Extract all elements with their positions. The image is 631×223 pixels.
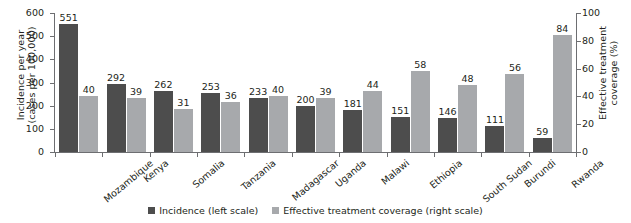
bar-value-coverage: 56 [501,63,528,73]
legend-item: Effective treatment coverage (right scal… [272,205,483,216]
y-axis-left-ticks: 6005004003002001000 [18,0,44,223]
plot-area: 5514029239262312533623340200391814415158… [55,13,576,152]
y-tick-right-100: 100 [582,8,608,18]
y-tick-right-80: 80 [582,36,608,46]
tick-mark-right-60 [577,69,581,70]
bar-value-coverage: 40 [265,85,292,95]
y-axis-right-line [576,13,577,153]
bar-value-incidence: 262 [148,80,179,90]
bar-coverage [79,96,98,152]
y-axis-right-ticks: 100806040200 [582,0,608,223]
y-tick-left-400: 400 [18,54,44,64]
y-tick-right-40: 40 [582,91,608,101]
tick-mark-x [481,153,482,157]
bar-value-coverage: 31 [170,98,197,108]
tick-mark-left-400 [50,59,54,60]
bar-coverage [127,98,146,152]
bar-group: 20039 [296,13,335,152]
bar-incidence [249,98,268,152]
tick-mark-x [576,153,577,157]
tick-mark-x [339,153,340,157]
chart-legend: Incidence (left scale)Effective treatmen… [0,205,631,216]
legend-label: Effective treatment coverage (right scal… [283,205,483,216]
bar-incidence [296,106,315,152]
bar-incidence [438,118,457,152]
bar-value-incidence: 59 [527,127,558,137]
bar-coverage [221,102,240,152]
bar-value-coverage: 36 [217,91,244,101]
legend-swatch-icon [272,207,279,214]
bar-incidence [343,110,362,152]
bar-value-coverage: 44 [359,80,386,90]
tick-mark-right-0 [577,152,581,153]
bar-group: 25336 [201,13,240,152]
bar-value-coverage: 48 [454,74,481,84]
tick-mark-x [434,153,435,157]
tick-mark-x [387,153,388,157]
y-tick-left-300: 300 [18,78,44,88]
bar-group: 15158 [391,13,430,152]
y-tick-left-600: 600 [18,8,44,18]
bar-group: 11156 [485,13,524,152]
legend-swatch-icon [148,207,155,214]
bar-incidence [391,117,410,152]
y-tick-left-0: 0 [18,147,44,157]
tick-mark-right-80 [577,41,581,42]
x-axis-line [54,152,577,153]
bar-coverage [505,74,524,152]
bar-group: 5984 [533,13,572,152]
bar-value-coverage: 39 [312,87,339,97]
bar-value-coverage: 40 [75,85,102,95]
bar-group: 18144 [343,13,382,152]
bar-chart: Incidence per year (cases per 100,000) E… [0,0,631,223]
tick-mark-right-40 [577,96,581,97]
tick-mark-x [244,153,245,157]
bar-group: 14648 [438,13,477,152]
bar-coverage [269,96,288,152]
bar-value-coverage: 58 [407,60,434,70]
legend-item: Incidence (left scale) [148,205,258,216]
bar-value-incidence: 292 [101,73,132,83]
legend-label: Incidence (left scale) [159,205,258,216]
y-tick-right-60: 60 [582,64,608,74]
y-tick-left-100: 100 [18,124,44,134]
tick-mark-left-200 [50,106,54,107]
bar-group: 23340 [249,13,288,152]
bar-value-coverage: 39 [123,87,150,97]
x-label-tanzania: Tanzania [239,158,277,192]
bar-value-incidence: 146 [432,107,463,117]
bar-coverage [316,98,335,152]
bar-value-incidence: 151 [385,106,416,116]
tick-mark-left-100 [50,129,54,130]
bar-group: 29239 [107,13,146,152]
y-tick-right-0: 0 [582,147,608,157]
tick-mark-x [150,153,151,157]
bar-coverage [458,85,477,152]
x-label-ethiopia: Ethiopia [428,158,464,191]
bar-incidence [201,93,220,152]
tick-mark-x [292,153,293,157]
tick-mark-left-0 [50,152,54,153]
bar-group: 26231 [154,13,193,152]
tick-mark-left-300 [50,83,54,84]
tick-mark-x [55,153,56,157]
bar-value-incidence: 551 [53,13,84,23]
y-tick-right-20: 20 [582,119,608,129]
bar-group: 55140 [59,13,98,152]
bar-value-incidence: 111 [479,115,510,125]
tick-mark-left-500 [50,36,54,37]
bar-coverage [174,109,193,152]
y-tick-left-500: 500 [18,31,44,41]
tick-mark-right-100 [577,13,581,14]
y-tick-left-200: 200 [18,101,44,111]
tick-mark-x [529,153,530,157]
bar-incidence [533,138,552,152]
tick-mark-x [102,153,103,157]
x-label-malawi: Malawi [380,158,412,187]
x-label-somalia: Somalia [191,158,227,190]
bar-value-incidence: 181 [337,99,368,109]
tick-mark-x [197,153,198,157]
bar-value-coverage: 84 [549,24,576,34]
tick-mark-right-20 [577,124,581,125]
bar-incidence [485,126,504,152]
